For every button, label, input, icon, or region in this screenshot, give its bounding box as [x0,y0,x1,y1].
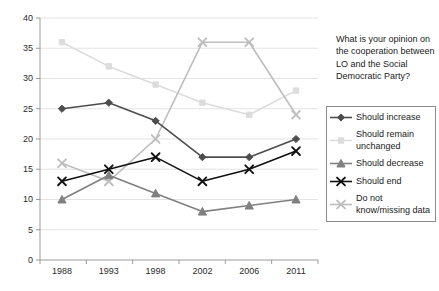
legend-item[interactable]: Should remain unchanged [329,129,433,152]
y-axis-tick-label: 5 [28,225,33,235]
y-axis-tick-label: 25 [23,104,33,114]
question-text: What is your opinion on the cooperation … [336,33,439,83]
data-point-marker [58,159,66,167]
legend-item[interactable]: Should end [329,175,433,188]
legend-marker-icon [329,198,353,211]
data-point-marker [293,88,298,93]
y-axis-tick-label: 10 [23,194,33,204]
data-series [58,147,300,185]
data-series [58,171,300,215]
chart-legend: Should increaseShould remain unchangedSh… [326,106,436,222]
line-chart-svg: 0510152025303540198819931998200220062011 [0,0,330,291]
x-axis-tick-label: 2006 [239,266,259,276]
y-axis-tick-label: 30 [23,73,33,83]
series-line [62,175,296,211]
y-axis-tick-label: 15 [23,164,33,174]
data-point-marker [292,111,300,119]
chart-root: 0510152025303540198819931998200220062011… [0,0,439,291]
legend-point-marker [337,114,344,121]
legend-label: Should remain unchanged [356,129,433,152]
legend-item[interactable]: Should increase [329,111,433,124]
y-axis-tick-label: 35 [23,43,33,53]
legend-item[interactable]: Do not know/missing data [329,193,433,216]
legend-point-marker [338,138,343,143]
legend-label: Should decrease [356,158,424,170]
y-axis-tick-label: 40 [23,13,33,23]
legend-marker-icon [329,134,353,147]
legend-item[interactable]: Should decrease [329,157,433,170]
series-line [62,103,296,157]
data-point-marker [153,82,158,87]
data-point-marker [246,154,253,161]
x-axis-tick-label: 1988 [52,266,72,276]
data-point-marker [292,135,299,142]
chart-side-panel: What is your opinion on the cooperation … [332,0,439,291]
data-point-marker [106,64,111,69]
data-point-marker [58,105,65,112]
x-axis-tick-label: 2002 [192,266,212,276]
plot-area: 0510152025303540198819931998200220062011 [0,0,330,291]
legend-marker-icon [329,175,353,188]
data-point-marker [292,147,300,155]
legend-label: Should increase [356,112,421,124]
x-axis-tick-label: 1998 [146,266,166,276]
data-point-marker [59,40,64,45]
series-line [62,42,296,181]
y-axis-tick-label: 20 [23,134,33,144]
legend-marker-icon [329,111,353,124]
y-axis-tick-label: 0 [28,255,33,265]
data-point-marker [105,99,112,106]
legend-marker-icon [329,157,353,170]
x-axis-tick-label: 1993 [99,266,119,276]
legend-label: Should end [356,176,402,188]
data-point-marker [200,100,205,105]
legend-label: Do not know/missing data [356,193,433,216]
data-point-marker [247,112,252,117]
x-axis-tick-label: 2011 [286,266,305,276]
